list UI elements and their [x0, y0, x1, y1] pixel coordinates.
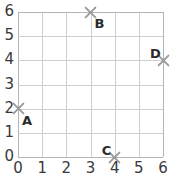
gridline-horizontal [18, 12, 163, 13]
point-label-a: A [22, 114, 32, 127]
x-axis-tick-label: 6 [156, 161, 170, 176]
gridline-horizontal [18, 133, 163, 134]
gridline-vertical [163, 12, 164, 157]
x-axis-tick-label: 4 [108, 161, 122, 176]
gridline-horizontal [18, 85, 163, 86]
x-axis-tick-label: 5 [132, 161, 146, 176]
y-axis-tick-label: 6 [0, 4, 14, 19]
gridline-horizontal [18, 60, 163, 61]
y-axis-tick-label: 3 [0, 77, 14, 92]
x-axis-tick-label: 3 [84, 161, 98, 176]
point-label-d: D [150, 47, 161, 60]
gridline-horizontal [18, 36, 163, 37]
y-axis-tick-label: 2 [0, 101, 14, 116]
x-axis-tick-label: 1 [35, 161, 49, 176]
y-axis-tick-label: 0 [0, 149, 14, 164]
gridline-horizontal [18, 157, 163, 158]
y-axis-tick-label: 1 [0, 125, 14, 140]
y-axis-tick-label: 5 [0, 28, 14, 43]
point-label-c: C [102, 144, 112, 157]
plot-area [18, 12, 163, 157]
y-axis-tick-label: 4 [0, 52, 14, 67]
coordinate-grid-figure: 01234560123456ABCD [0, 0, 173, 180]
x-axis-tick-label: 2 [59, 161, 73, 176]
gridline-horizontal [18, 109, 163, 110]
point-label-b: B [95, 17, 105, 30]
